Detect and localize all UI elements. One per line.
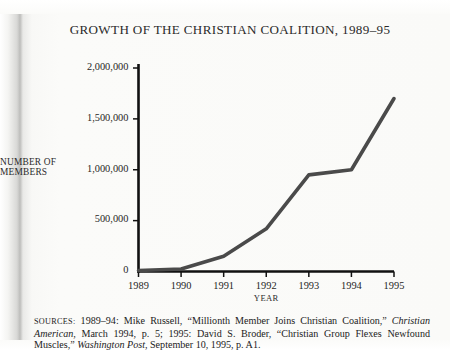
- x-axis-title: YEAR: [226, 293, 306, 303]
- source-note-italic-washington-post: Washington Post: [77, 339, 145, 350]
- source-note-prefix: SOURCES:: [34, 317, 76, 326]
- line-chart: 0500,0001,000,0001,500,0002,000,00019891…: [0, 0, 450, 350]
- chart-canvas: [0, 0, 450, 350]
- scanned-page: GROWTH OF THE CHRISTIAN COALITION, 1989–…: [0, 0, 450, 350]
- y-axis-title-line1: NUMBER OF: [0, 157, 33, 167]
- y-axis-tick-label: 0: [37, 264, 129, 275]
- source-note: SOURCES: 1989–94: Mike Russell, “Million…: [34, 315, 430, 350]
- y-axis-tick-label: 1,500,000: [37, 112, 129, 123]
- y-axis-title-line2: MEMBERS: [0, 167, 33, 177]
- x-axis-tick-label: 1995: [364, 280, 424, 291]
- y-axis-tick-label: 2,000,000: [37, 61, 129, 72]
- data-series-line: [139, 99, 395, 271]
- source-note-part1: 1989–94: Mike Russell, “Millionth Member…: [76, 315, 392, 326]
- y-axis-tick-label: 500,000: [37, 213, 129, 224]
- y-axis-title: NUMBER OFMEMBERS: [0, 157, 33, 177]
- source-note-part3: , September 10, 1995, p. A1.: [145, 339, 261, 350]
